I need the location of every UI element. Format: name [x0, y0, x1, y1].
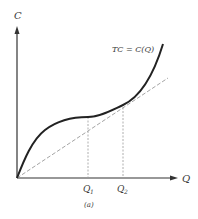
x-tick-q1-sub: 1	[90, 188, 94, 195]
x-tick-q2: Q 2	[117, 184, 128, 195]
ray-from-origin	[17, 78, 168, 178]
y-axis-label: C	[14, 10, 22, 21]
x-tick-q1: Q 1	[83, 184, 94, 195]
total-cost-curve	[17, 44, 163, 178]
cost-diagram: C Q TC = C(Q) Q 1 Q 2 (a)	[0, 0, 198, 219]
x-tick-q2-sub: 2	[123, 188, 128, 195]
x-axis-arrow-icon	[170, 176, 178, 181]
caption: (a)	[84, 201, 94, 209]
x-axis-label: Q	[182, 173, 190, 184]
curve-label: TC = C(Q)	[112, 45, 154, 54]
y-axis-arrow-icon	[15, 26, 20, 34]
